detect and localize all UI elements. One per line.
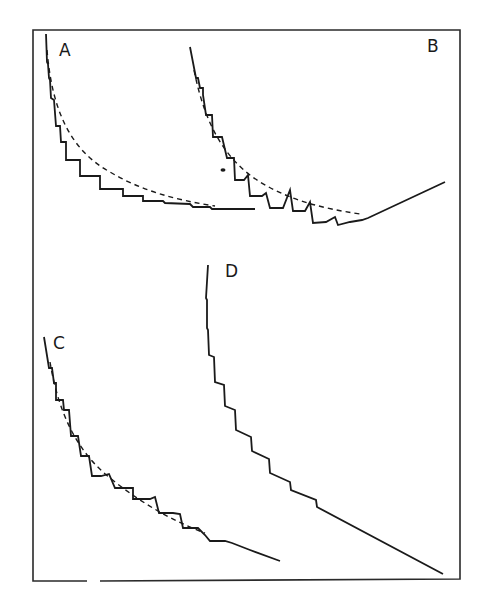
panel-c-dashed-fit xyxy=(50,362,205,533)
panel-b: B xyxy=(190,36,445,225)
panel-a-dashed-fit xyxy=(47,50,215,206)
figure-diagram: A B C D xyxy=(0,0,481,591)
panel-c-label: C xyxy=(53,333,65,353)
panel-a-label: A xyxy=(59,40,71,60)
panel-a-step-curve xyxy=(46,34,255,209)
panel-b-step-curve xyxy=(190,47,445,225)
panel-d: D xyxy=(206,261,443,574)
specimen-dot xyxy=(221,168,226,172)
panel-b-dashed-fit xyxy=(194,70,360,214)
panel-d-step-curve xyxy=(206,265,443,574)
figure-frame xyxy=(33,30,460,581)
panel-a: A xyxy=(46,34,255,209)
panel-c: C xyxy=(44,333,280,561)
panel-b-label: B xyxy=(427,36,439,56)
panel-d-label: D xyxy=(225,261,238,281)
panel-c-step-curve xyxy=(44,337,280,561)
